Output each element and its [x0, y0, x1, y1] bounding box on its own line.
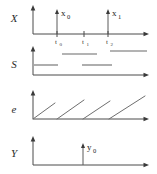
- s-panel-vertical-axis-arrowhead: [31, 46, 36, 52]
- signal-timing-diagram: X x 0 x 1 t 0 t 1 t: [0, 0, 157, 174]
- impulse-x0-subscript: 0: [67, 13, 70, 20]
- tick-label-t2: t: [106, 38, 108, 46]
- panel-e: e: [12, 90, 149, 121]
- impulse-x1-label: x: [112, 8, 117, 18]
- e-panel-vertical-axis-arrowhead: [31, 90, 36, 96]
- e-ramp-4: [109, 96, 145, 119]
- x-panel-vertical-axis-arrowhead: [31, 5, 36, 11]
- e-ramp-1: [33, 103, 55, 119]
- row-label-x: X: [10, 12, 19, 24]
- impulse-x1-subscript: 1: [118, 13, 121, 20]
- row-label-e: e: [12, 103, 17, 115]
- impulse-y0-subscript: 0: [93, 147, 96, 154]
- y-panel-vertical-axis-arrowhead: [31, 136, 36, 142]
- diagram-canvas: X x 0 x 1 t 0 t 1 t: [0, 0, 157, 174]
- s-panel-baseline-arrowhead: [144, 73, 150, 78]
- impulse-y0-label: y: [87, 142, 92, 152]
- row-label-y: Y: [11, 147, 19, 159]
- panel-s: S: [11, 46, 149, 77]
- e-ramp-2: [57, 100, 84, 119]
- tick-label-t2-subscript: 2: [111, 42, 114, 47]
- tick-label-t1-subscript: 1: [87, 42, 90, 47]
- row-label-s: S: [11, 58, 17, 70]
- panel-x: X x 0 x 1 t 0 t 1 t: [10, 5, 149, 47]
- tick-label-t0-subscript: 0: [60, 42, 63, 47]
- e-ramp-3: [83, 101, 110, 119]
- y-panel-baseline-arrowhead: [144, 163, 150, 168]
- e-panel-baseline-arrowhead: [144, 117, 150, 122]
- panel-y: Y y 0: [11, 136, 149, 167]
- tick-label-t0: t: [55, 38, 57, 46]
- impulse-x1-arrowhead: [106, 9, 110, 14]
- x-panel-baseline-arrowhead: [144, 32, 150, 37]
- tick-label-t1: t: [82, 38, 84, 46]
- impulse-x0-arrowhead: [55, 9, 59, 14]
- impulse-x0-label: x: [61, 8, 66, 18]
- impulse-y0-arrowhead: [81, 143, 85, 148]
